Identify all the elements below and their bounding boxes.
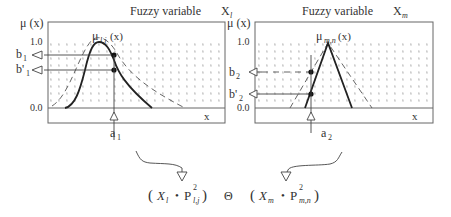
panel-right-x-label: x [412,110,418,122]
formula-right-p-sup: 2 [299,183,303,192]
panel-right-a-arrow-icon [307,112,315,120]
panel-left-tick-top: 1.0 [30,36,43,47]
panel-left-bprime-arrow-icon [32,66,42,74]
formula-left-p-sub: l,j [193,196,200,205]
right-connector-arrow-icon [281,172,291,181]
formula-right-var: X [258,188,268,203]
panel-left-y-label: μ (x) [20,16,43,30]
formula-left-close: ) [202,187,207,204]
panel-left-a-sub: 1 [117,133,121,142]
formula-left-p: P [184,188,191,203]
panel-right-tick-bottom: 0.0 [237,102,250,113]
right-curved-connector [287,152,342,172]
panel-left-a-arrow-icon [110,112,118,120]
panel-left-b-arrow-icon [32,51,42,59]
formula-left-var: X [156,188,166,203]
formula: ( X l • P 2 l,j ) Θ ( X m • P 2 m,n ) [148,183,319,205]
fuzzy-diagram: Fuzzy variable X l μ (x) 1.0 0.0 x μ l,j… [0,0,451,217]
panel-left-curve-arg: (x) [110,30,123,43]
panel-right-y-label: μ (x) [227,16,250,30]
formula-left-dot: • [175,189,179,201]
panel-right-bprime-sub: 2 [239,94,243,103]
panel-right-tick-top: 1.0 [237,36,250,47]
formula-right-dot: • [281,189,285,201]
formula-right-close: ) [314,187,319,204]
panel-left-curve-label: μ [92,29,98,43]
panel-right-curve-label: μ [316,29,322,43]
panel-left-x-label: x [204,110,210,122]
formula-left-var-sub: l [166,196,169,205]
formula-right-open: ( [250,187,255,204]
panel-left-title: Fuzzy variable [130,4,201,18]
panel-right-curve-arg: (x) [338,30,351,43]
panel-right-bprime-label: b' [229,87,237,101]
panel-right-curve-sub: m,n [324,36,336,45]
panel-right-a-label: a [321,126,327,140]
panel-right-grid [257,42,431,106]
formula-operator: Θ [224,189,233,203]
left-connector-arrow-icon [177,172,187,181]
panel-right-bprime-arrow-icon [249,90,257,98]
panel-left: Fuzzy variable X l μ (x) 1.0 0.0 x μ l,j… [16,4,233,142]
panel-left-bprime-label: b' [16,62,24,76]
panel-left-b-label: b [16,47,22,61]
panel-right-title: Fuzzy variable [302,4,373,18]
left-curved-connector [136,151,182,172]
panel-left-a-label: a [110,126,116,140]
panel-right-var: X [393,4,402,18]
formula-right-p-sub: m,n [299,196,311,205]
formula-left-open: ( [148,187,153,204]
panel-right-a-sub: 2 [328,133,332,142]
panel-right-b-label: b [229,65,235,79]
panel-left-tick-bottom: 0.0 [30,102,43,113]
panel-left-bprime-sub: 1 [26,69,30,78]
panel-right-var-sub: m [402,11,408,20]
formula-right-p: P [290,188,297,203]
formula-right-var-sub: m [268,196,274,205]
formula-left-p-sup: 2 [193,183,197,192]
panel-right-b-sub: 2 [236,72,240,81]
panel-right: Fuzzy variable X m μ (x) 1.0 0.0 x μ m,n… [227,4,433,142]
panel-right-b-arrow-icon [249,68,257,76]
